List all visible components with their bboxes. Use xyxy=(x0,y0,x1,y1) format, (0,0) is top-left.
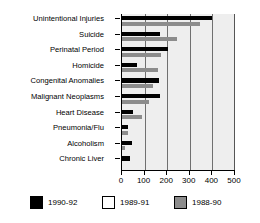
category-label: Congenital Anomalies xyxy=(31,77,104,85)
category-label: Chronic Liver xyxy=(59,155,104,163)
legend-label: 1990-92 xyxy=(48,198,77,207)
legend-swatch-icon xyxy=(102,196,115,209)
bar-suicide-1988-90 xyxy=(122,37,177,41)
bar-pneumonia-flu-1990-92 xyxy=(122,125,128,129)
bar-congenital-anomalies-1988-90 xyxy=(122,84,153,88)
bar-homicide-1990-92 xyxy=(122,63,137,67)
bar-perinatal-period-1988-90 xyxy=(122,53,161,57)
plot-right-border xyxy=(234,14,235,171)
legend-swatch-icon xyxy=(174,196,187,209)
legend-label: 1989-91 xyxy=(120,198,149,207)
category-label: Alcoholism xyxy=(67,140,104,148)
chart-legend: 1990-92 1989-91 1988-90 xyxy=(30,196,235,216)
bar-malignant-neoplasms-1988-90 xyxy=(122,100,149,104)
bar-congenital-anomalies-1990-92 xyxy=(122,78,159,82)
category-label: Malignant Neoplasms xyxy=(31,93,104,101)
bar-perinatal-period-1990-92 xyxy=(122,47,168,51)
bar-malignant-neoplasms-1990-92 xyxy=(122,94,160,98)
x-tick-label: 400 xyxy=(199,176,223,186)
x-axis-line xyxy=(121,170,235,171)
bar-alcoholism-1990-92 xyxy=(122,141,132,145)
bar-alcoholism-1988-90 xyxy=(122,146,125,150)
legend-item: 1988-90 xyxy=(174,196,221,209)
category-label: Pneumonia/Flu xyxy=(53,124,104,132)
category-label: Heart Disease xyxy=(56,109,104,117)
bar-chronic-liver-1990-92 xyxy=(122,156,130,160)
bar-unintentional-injuries-1990-92 xyxy=(122,16,212,20)
legend-item: 1989-91 xyxy=(102,196,149,209)
legend-swatch-icon xyxy=(30,196,43,209)
bar-unintentional-injuries-1988-90 xyxy=(122,22,200,26)
gridline-400 xyxy=(212,14,213,170)
category-label: Unintentional Injuries xyxy=(33,15,104,23)
category-label: Suicide xyxy=(79,31,104,39)
legend-label: 1988-90 xyxy=(192,198,221,207)
x-tick-label: 500 xyxy=(222,176,246,186)
bar-suicide-1990-92 xyxy=(122,32,160,36)
x-tick-label: 300 xyxy=(177,176,201,186)
x-tick-label: 200 xyxy=(154,176,178,186)
category-label: Homicide xyxy=(72,62,104,70)
bar-homicide-1988-90 xyxy=(122,68,158,72)
bar-chart: Unintentional Injuries Suicide Perinatal… xyxy=(0,0,260,223)
gridline-300 xyxy=(190,14,191,170)
legend-item: 1990-92 xyxy=(30,196,77,209)
category-axis-labels: Unintentional Injuries Suicide Perinatal… xyxy=(0,14,112,170)
bar-heart-disease-1988-90 xyxy=(122,115,142,119)
bar-pneumonia-flu-1988-90 xyxy=(122,131,128,135)
x-tick-label: 0 xyxy=(109,176,133,186)
plot-area xyxy=(121,14,235,170)
category-label: Perinatal Period xyxy=(50,46,104,54)
bar-heart-disease-1990-92 xyxy=(122,110,133,114)
x-tick-label: 100 xyxy=(132,176,156,186)
